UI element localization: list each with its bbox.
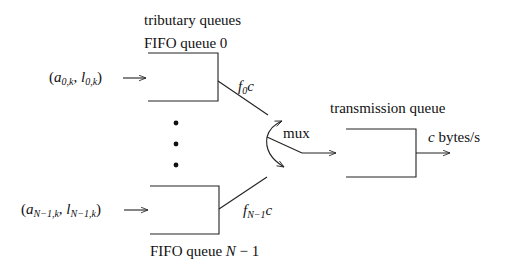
fifo-queue-n-1-box	[150, 186, 219, 234]
fifo-queue-0-label: FIFO queue 0	[144, 36, 227, 51]
rate-label-bottom: fN−1c	[243, 203, 272, 220]
mux-label: mux	[283, 126, 310, 141]
input-tuple-bottom: (aN−1,k, lN−1,k)	[21, 202, 101, 219]
ellipsis-dot-2	[174, 142, 179, 147]
fifo-queue-n-1-label: FIFO queue N − 1	[150, 244, 259, 259]
mux-curve-up-arrow	[267, 121, 282, 137]
input-tuple-top: (a0,k, l0,k)	[49, 70, 102, 87]
ellipsis-dot-1	[174, 121, 179, 126]
tributary-queues-title: tributary queues	[144, 13, 241, 28]
transmission-queue-box	[346, 129, 416, 177]
mux-curve-down-arrow	[267, 137, 284, 167]
output-rate-label: c bytes/s	[428, 130, 480, 145]
fifo-queue-0-box	[148, 53, 218, 101]
queue-mux-diagram: tributary queues FIFO queue 0 (a0,k, l0,…	[0, 0, 506, 276]
ellipsis-dot-3	[174, 163, 179, 168]
rate-label-top: f0c	[238, 79, 254, 96]
transmission-queue-title: transmission queue	[330, 101, 445, 116]
